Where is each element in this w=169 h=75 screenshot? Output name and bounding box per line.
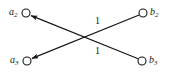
node-label-a3: a3 xyxy=(10,55,19,65)
bipartite-graph-diagram: a2 a3 b2 b3 1 1 xyxy=(0,0,169,75)
node-label-b3: b3 xyxy=(149,55,158,65)
edge-weight-b3-a2: 1 xyxy=(95,16,100,26)
node-circle-a2 xyxy=(22,9,30,17)
graph-canvas xyxy=(0,0,169,75)
edge-weight-b2-a3: 1 xyxy=(95,46,100,56)
node-label-a2-subscript: 2 xyxy=(14,11,18,19)
node-circle-a3 xyxy=(23,57,31,65)
node-label-b2-subscript: 2 xyxy=(155,11,159,19)
edge-b2-a3 xyxy=(32,15,139,58)
node-circle-b2 xyxy=(139,9,147,17)
node-label-b3-subscript: 3 xyxy=(154,59,158,67)
node-label-a3-subscript: 3 xyxy=(15,59,19,67)
node-label-a2: a2 xyxy=(9,7,18,17)
node-circle-b3 xyxy=(138,57,146,65)
node-label-b2: b2 xyxy=(150,7,159,17)
